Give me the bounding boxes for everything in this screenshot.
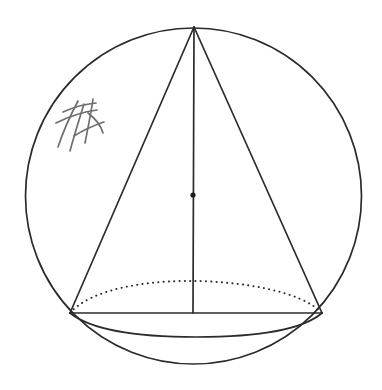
- geometry-figure-canvas: [0, 0, 382, 390]
- cone-in-sphere-diagram: [0, 0, 382, 390]
- base-ellipse-front-arc: [70, 313, 322, 337]
- cone-left-slant-edge: [70, 27, 194, 313]
- base-ellipse-back-arc: [70, 281, 322, 313]
- sphere-center-point: [190, 192, 195, 197]
- handwritten-annotation: [56, 99, 104, 151]
- cone-axis: [193, 27, 194, 313]
- cone-right-slant-edge: [194, 27, 322, 313]
